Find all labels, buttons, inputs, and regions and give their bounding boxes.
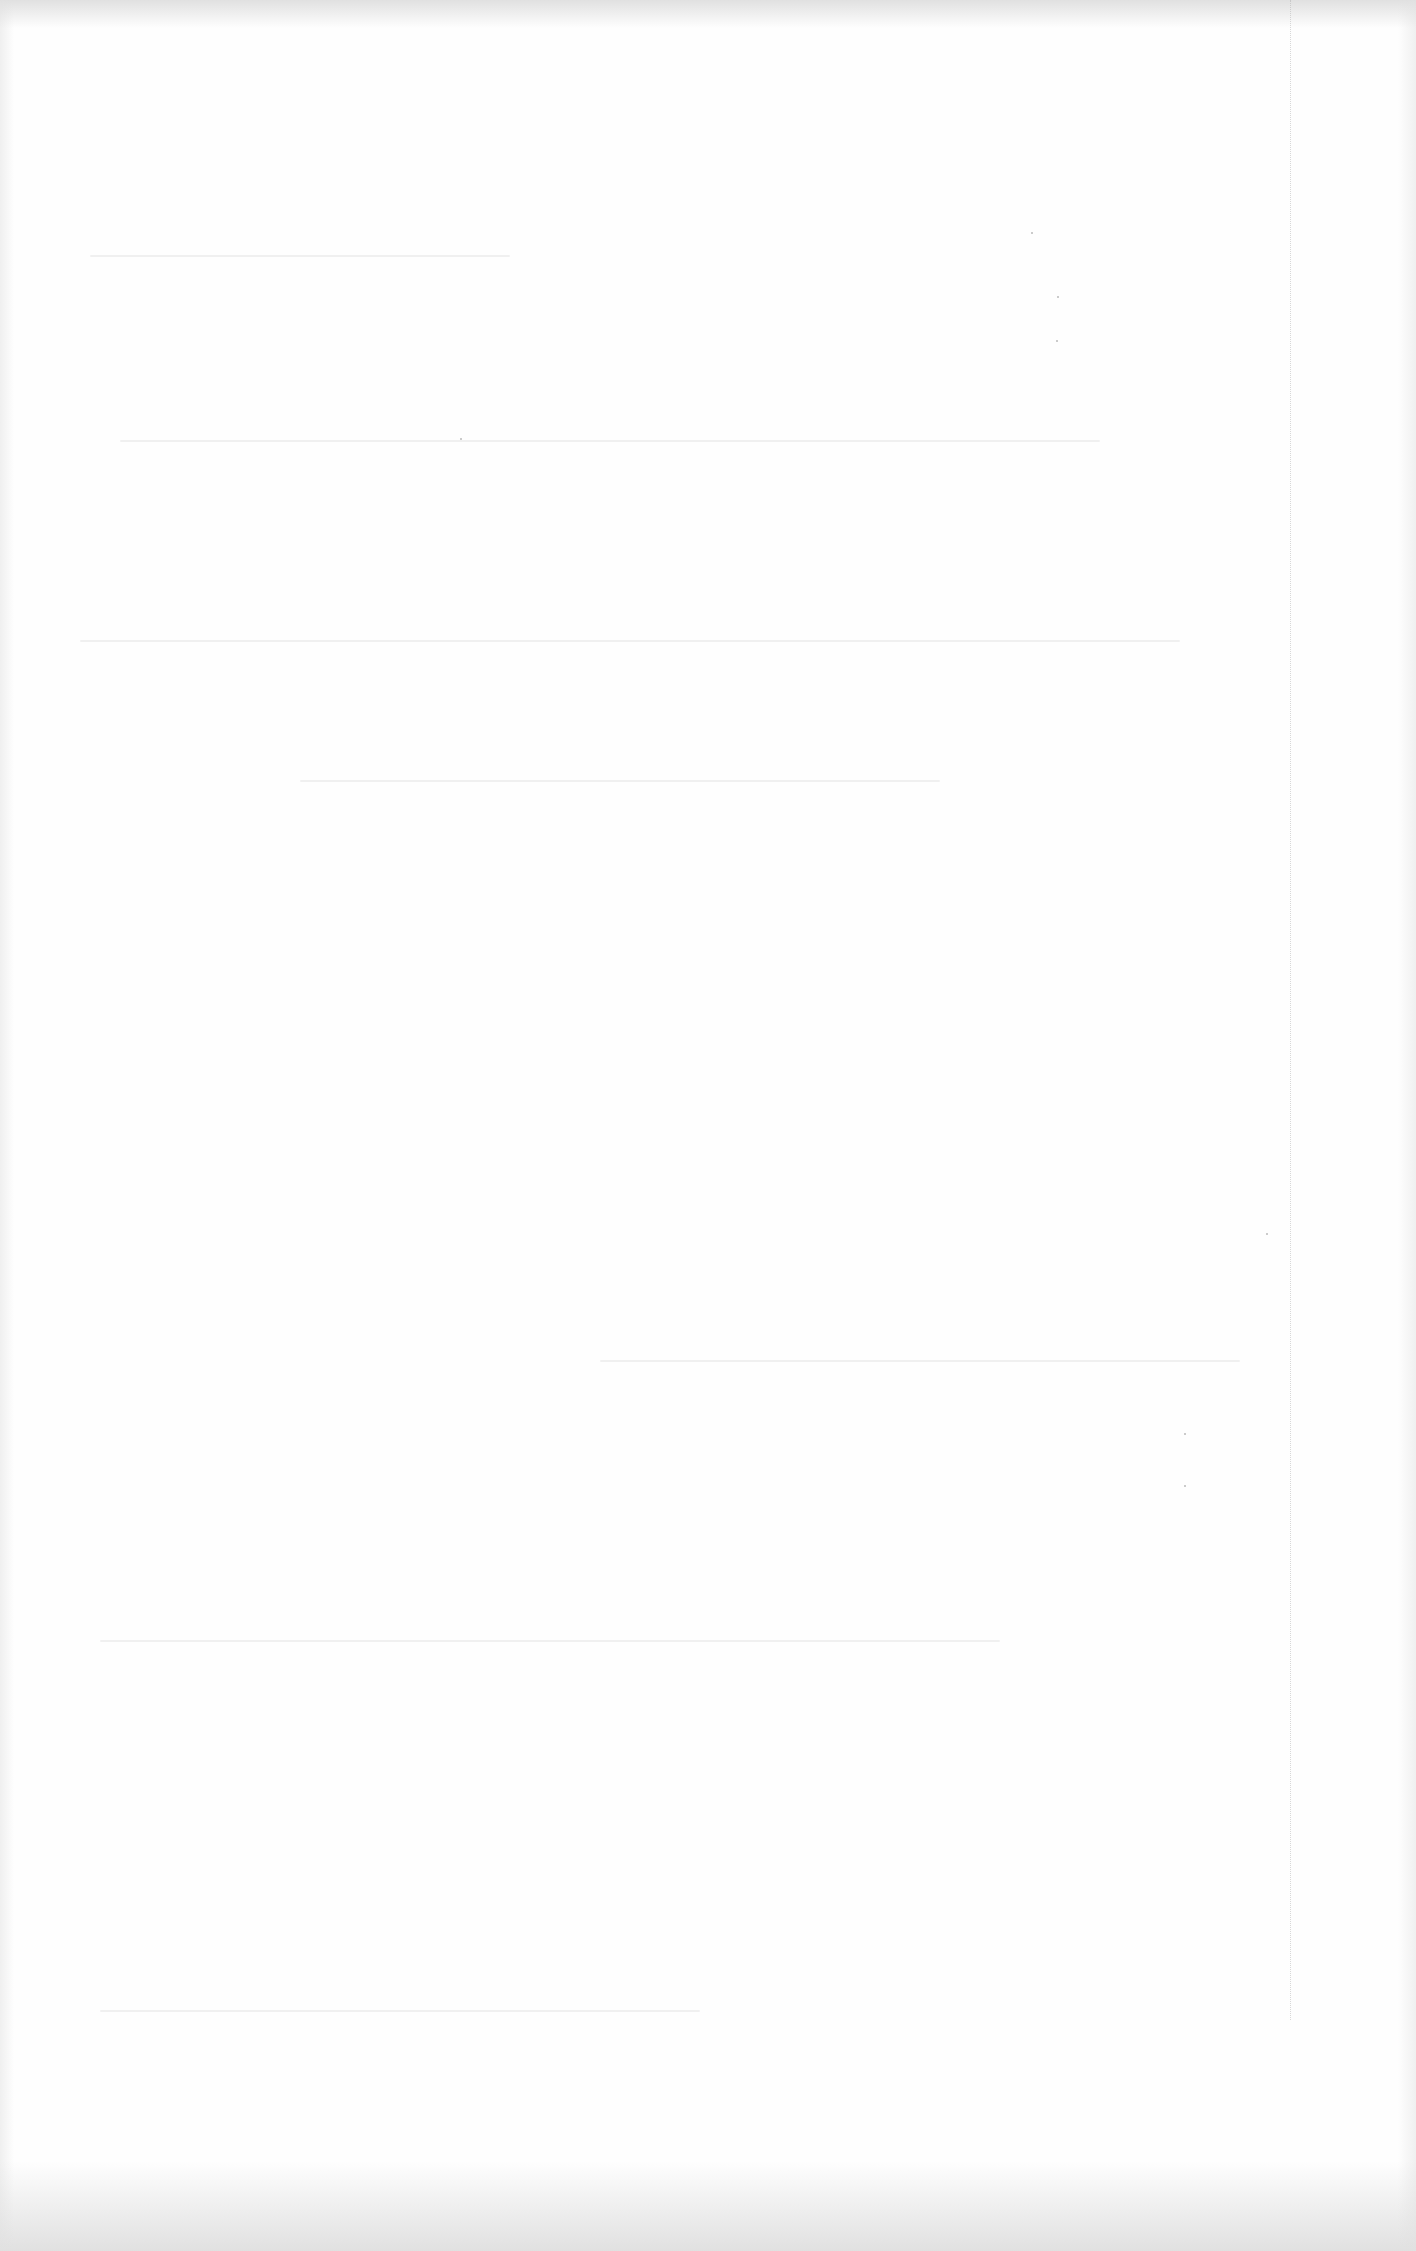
scan-edge-left	[0, 0, 14, 2251]
dust-speck	[1057, 296, 1059, 298]
bleed-through-line	[300, 780, 940, 782]
fold-line	[1290, 0, 1291, 2020]
dust-speck	[1031, 232, 1033, 234]
scan-edge-right	[1398, 0, 1416, 2251]
scan-edge-bottom	[0, 2161, 1416, 2251]
dust-speck	[1184, 1433, 1186, 1435]
dust-speck	[1184, 1485, 1186, 1487]
bleed-through-line	[100, 2010, 700, 2012]
bleed-through-line	[90, 255, 510, 257]
blank-scanned-page	[0, 0, 1416, 2251]
dust-speck	[460, 438, 462, 440]
bleed-through-line	[80, 640, 1180, 642]
bleed-through-line	[120, 440, 1100, 442]
dust-speck	[1266, 1233, 1268, 1235]
scan-edge-top	[0, 0, 1416, 28]
bleed-through-line	[600, 1360, 1240, 1362]
bleed-through-line	[100, 1640, 1000, 1642]
dust-speck	[1056, 340, 1058, 342]
